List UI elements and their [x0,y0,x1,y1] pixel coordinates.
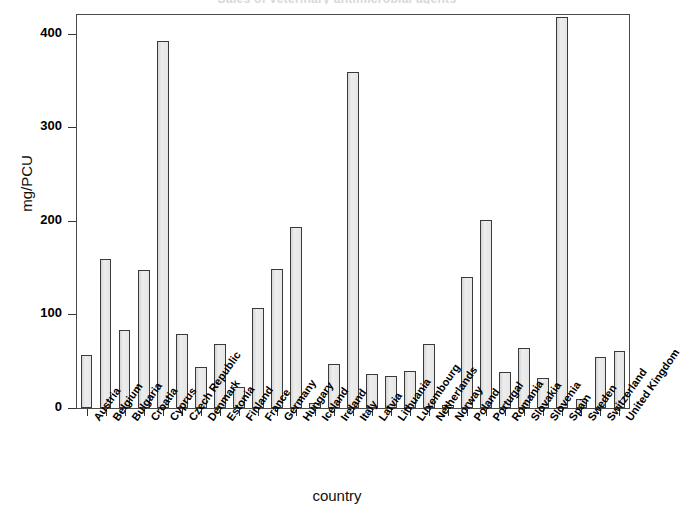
x-axis-title: country [0,487,674,504]
y-tick-mark [68,34,76,35]
y-tick-label: 400 [40,25,62,40]
y-tick: 400 [0,34,76,35]
bar [81,355,93,408]
y-tick: 100 [0,314,76,315]
bar [290,227,302,408]
bar [347,72,359,408]
y-tick-label: 100 [40,305,62,320]
y-tick: 300 [0,127,76,128]
y-axis-title: mg/PCU [18,124,35,244]
y-tick: 200 [0,221,76,222]
x-tick-mark [87,409,88,416]
y-tick-mark [68,127,76,128]
bars-layer [77,15,629,408]
y-tick: 0 [0,408,76,409]
y-tick-mark [68,221,76,222]
y-tick-mark [68,408,76,409]
chart-title: Sales of veterinary antimicrobial agents [0,0,674,4]
bar [157,41,169,408]
y-tick-mark [68,314,76,315]
bar [100,259,112,408]
y-tick-label: 0 [55,399,62,414]
bar [480,220,492,408]
bar [556,17,568,408]
y-tick-label: 200 [40,212,62,227]
y-tick-label: 300 [40,118,62,133]
